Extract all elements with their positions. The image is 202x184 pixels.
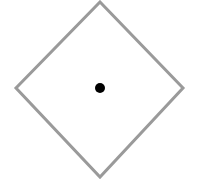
center-point	[95, 83, 105, 93]
diamond-figure-svg	[0, 0, 202, 184]
figure-canvas	[0, 0, 202, 184]
